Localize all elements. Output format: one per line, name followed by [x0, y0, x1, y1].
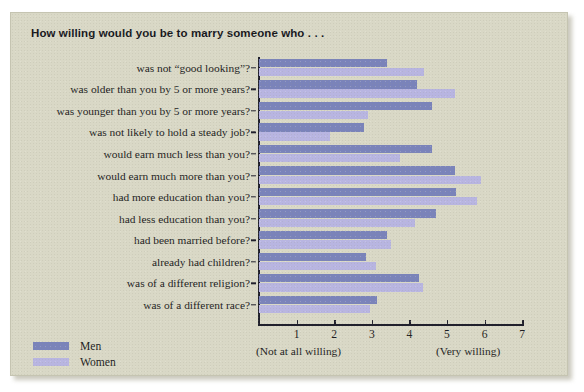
bar-men — [259, 123, 364, 131]
category-tick — [251, 132, 256, 133]
bar-women — [259, 197, 477, 205]
category-row: was of a different religion? — [11, 273, 568, 295]
chart-page: How willing would you be to marry someon… — [0, 0, 584, 392]
x-tick-label: 4 — [399, 328, 419, 341]
category-label: was older than you by 5 or more years? — [70, 83, 250, 95]
category-tick — [251, 304, 256, 305]
x-tick — [297, 320, 298, 326]
category-label: had more education than you? — [113, 191, 250, 203]
legend-swatch-men — [33, 342, 69, 351]
category-row: was not “good looking”? — [11, 57, 568, 79]
category-label: was not likely to hold a steady job? — [89, 126, 250, 138]
legend-item: Women — [33, 355, 116, 369]
x-tick-label: 6 — [475, 328, 495, 341]
x-tick — [409, 320, 410, 326]
legend-label: Women — [80, 356, 116, 369]
bar-men — [259, 296, 377, 304]
category-row: already had children? — [11, 251, 568, 273]
bar-men — [259, 166, 455, 174]
legend-swatch-women — [33, 358, 69, 367]
x-tick — [372, 320, 373, 326]
bar-men — [259, 231, 387, 239]
bar-women — [259, 283, 423, 291]
category-row: was younger than you by 5 or more years? — [11, 100, 568, 122]
category-row: was of a different race? — [11, 294, 568, 316]
bar-men — [259, 145, 432, 153]
legend-label: Men — [80, 340, 101, 353]
bar-women — [259, 262, 376, 270]
bar-men — [259, 209, 436, 217]
bar-men — [259, 274, 419, 282]
category-tick — [251, 261, 256, 262]
x-tick — [334, 320, 335, 326]
bar-women — [259, 132, 330, 140]
category-row: had been married before? — [11, 229, 568, 251]
bar-women — [259, 111, 368, 119]
bar-women — [259, 240, 391, 248]
category-tick — [251, 283, 256, 284]
category-label: had been married before? — [134, 234, 250, 246]
bar-men — [259, 253, 366, 261]
category-tick — [251, 196, 256, 197]
x-tick-label: 1 — [287, 328, 307, 341]
category-tick — [251, 89, 256, 90]
bar-men — [259, 59, 387, 67]
x-tick-label: 7 — [512, 328, 532, 341]
bar-men — [259, 102, 432, 110]
category-tick — [251, 175, 256, 176]
category-label: would earn much more than you? — [97, 170, 250, 182]
axis-note-left: (Not at all willing) — [256, 345, 341, 357]
x-tick — [485, 320, 486, 326]
category-tick — [251, 218, 256, 219]
category-row: was older than you by 5 or more years? — [11, 79, 568, 101]
category-label: was of a different religion? — [127, 277, 250, 289]
legend: MenWomen — [33, 339, 116, 371]
bar-women — [259, 89, 455, 97]
bar-men — [259, 80, 417, 88]
category-tick — [251, 153, 256, 154]
bar-women — [259, 219, 415, 227]
category-label: would earn much less than you? — [104, 148, 250, 160]
axis-note-right: (Very willing) — [436, 345, 500, 357]
x-tick — [447, 320, 448, 326]
category-tick — [251, 67, 256, 68]
legend-item: Men — [33, 339, 116, 353]
plot-area: was not “good looking”?was older than yo… — [11, 13, 568, 376]
category-label: was younger than you by 5 or more years? — [56, 105, 250, 117]
category-row: would earn much more than you? — [11, 165, 568, 187]
bar-women — [259, 176, 481, 184]
x-tick — [522, 320, 523, 326]
chart-card: How willing would you be to marry someon… — [10, 12, 568, 376]
category-row: had more education than you? — [11, 186, 568, 208]
category-row: had less education than you? — [11, 208, 568, 230]
category-tick — [251, 239, 256, 240]
category-label: was not “good looking”? — [136, 62, 250, 74]
bar-men — [259, 188, 456, 196]
bar-women — [259, 305, 370, 313]
x-tick-label: 2 — [324, 328, 344, 341]
category-label: had less education than you? — [119, 213, 250, 225]
bar-women — [259, 68, 424, 76]
category-tick — [251, 110, 256, 111]
bar-women — [259, 154, 400, 162]
category-row: was not likely to hold a steady job? — [11, 122, 568, 144]
category-label: was of a different race? — [143, 299, 250, 311]
x-tick-label: 3 — [362, 328, 382, 341]
category-row: would earn much less than you? — [11, 143, 568, 165]
x-tick-label: 5 — [437, 328, 457, 341]
category-label: already had children? — [152, 256, 250, 268]
